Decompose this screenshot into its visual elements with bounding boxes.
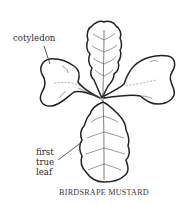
cotyledon-label: cotyledon <box>13 34 55 43</box>
seedling-drawing <box>0 0 184 204</box>
true-leaf-label-line2: true <box>36 158 54 167</box>
seedling-illustration: cotyledon first true leaf BIRDSRAPE MUST… <box>0 0 184 204</box>
true-leaf-label-line3: leaf <box>36 168 52 177</box>
first-true-leaf <box>80 102 130 182</box>
true-leaf-leader-line <box>58 142 82 160</box>
true-leaf-label-line1: first <box>36 148 54 157</box>
figure-caption: BIRDSRAPE MUSTARD <box>0 188 184 197</box>
top-true-leaf <box>87 21 122 98</box>
